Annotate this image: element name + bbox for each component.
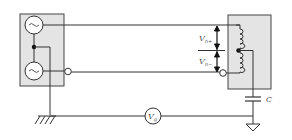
vn-plus-label: Vn+ (199, 34, 212, 44)
capacitor-icon (245, 97, 261, 101)
vn-minus-label: Vn− (199, 57, 212, 67)
ac-source-icon (25, 16, 43, 34)
ac-source-icon (25, 62, 43, 80)
terminal-icon (220, 70, 227, 77)
terminal-icon (65, 68, 72, 75)
voltmeter-icon: Vg (145, 108, 161, 124)
circuit-diagram: Vg Vn+ Vn− C (0, 0, 292, 140)
right-load-box (228, 15, 271, 89)
ground-icon (246, 124, 260, 131)
voltage-arrows-icon (215, 26, 220, 72)
capacitor-label: C (266, 95, 272, 104)
earth-ground-icon (35, 116, 56, 124)
